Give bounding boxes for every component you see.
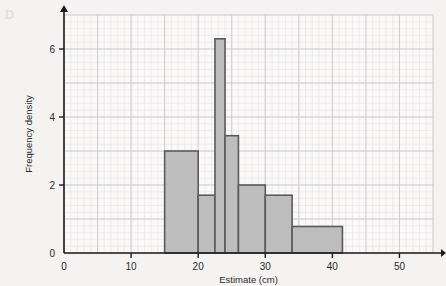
y-tick-label: 2 bbox=[49, 180, 55, 191]
histogram-bar bbox=[165, 151, 199, 253]
x-axis-arrow bbox=[441, 249, 446, 257]
y-axis-title: Frequency density bbox=[23, 95, 34, 173]
histogram-bar bbox=[238, 185, 265, 253]
x-tick-label: 0 bbox=[61, 261, 67, 272]
x-tick-label: 10 bbox=[126, 261, 138, 272]
x-tick-label: 20 bbox=[193, 261, 205, 272]
x-axis-title: Estimate (cm) bbox=[219, 274, 278, 285]
histogram-bar bbox=[198, 195, 215, 253]
histogram-bar bbox=[292, 226, 342, 253]
histogram-bar bbox=[225, 136, 238, 253]
y-axis-arrow bbox=[60, 5, 68, 12]
histogram-svg: 010203040500246Estimate (cm)Frequency de… bbox=[0, 0, 446, 286]
histogram-bar bbox=[265, 195, 292, 253]
y-tick-label: 4 bbox=[49, 112, 55, 123]
x-tick-label: 30 bbox=[260, 261, 272, 272]
histogram-bar bbox=[215, 39, 225, 253]
x-tick-label: 50 bbox=[394, 261, 406, 272]
y-tick-label: 0 bbox=[49, 248, 55, 259]
histogram-figure: D 010203040500246Estimate (cm)Frequency … bbox=[0, 0, 446, 286]
y-tick-label: 6 bbox=[49, 44, 55, 55]
x-tick-label: 40 bbox=[327, 261, 339, 272]
